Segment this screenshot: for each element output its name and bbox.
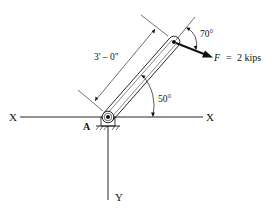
x-axis-right-label: X	[206, 111, 214, 123]
force-value: 2 kips	[237, 52, 261, 63]
force-angle-arc	[187, 28, 197, 49]
force-arrow-shaft	[176, 43, 204, 54]
force-equals: =	[226, 52, 232, 63]
member-angle-label: 50°	[158, 94, 172, 104]
force-angle-arrow-top	[186, 28, 191, 32]
pivot-pin	[106, 115, 110, 119]
member-angle-arc	[143, 76, 154, 116]
x-axis-left-label: X	[9, 111, 17, 123]
length-label: 3' – 0"	[94, 52, 119, 62]
force-arrow-head	[202, 51, 213, 58]
member-axis-extension	[176, 17, 195, 40]
member-bar	[104, 36, 180, 121]
extension-line-bottom	[78, 90, 103, 111]
member-angle-arrow-bottom	[151, 113, 155, 118]
top-pin	[172, 40, 176, 44]
extension-line-top	[141, 15, 168, 36]
statics-diagram: X X Y A 3' – 0" 50°	[0, 0, 275, 215]
y-axis-label: Y	[115, 191, 123, 203]
ground-hatch	[96, 126, 119, 130]
force-symbol: F	[213, 52, 221, 63]
pivot-label-a: A	[83, 121, 91, 132]
force-angle-label: 70°	[200, 29, 214, 39]
